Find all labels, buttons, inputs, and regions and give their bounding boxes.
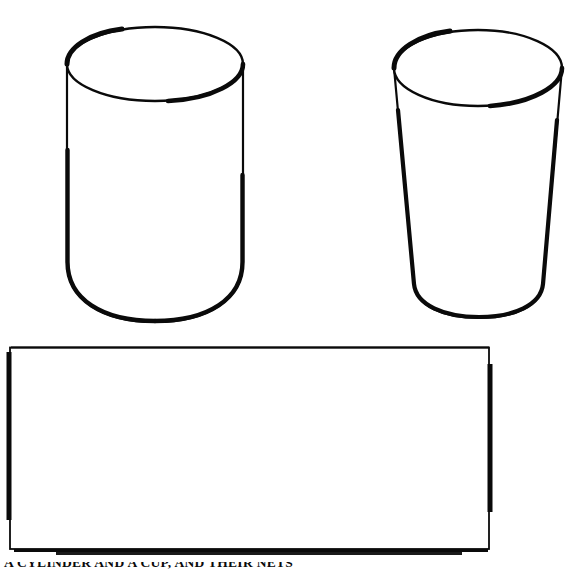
figure-canvas: A CYLINDER AND A CUP, AND THEIR NETS (0, 0, 579, 572)
caption-clip-strip: A CYLINDER AND A CUP, AND THEIR NETS (0, 562, 579, 572)
cylinder-body-outline (67, 64, 243, 322)
left-cylinder-shape (67, 27, 243, 322)
rectangle-outline (10, 348, 489, 550)
figure-caption: A CYLINDER AND A CUP, AND THEIR NETS (4, 562, 293, 571)
lateral-rectangle-shape (9, 348, 490, 554)
right-cup-shape (394, 30, 562, 318)
line-drawing-svg (0, 0, 579, 572)
